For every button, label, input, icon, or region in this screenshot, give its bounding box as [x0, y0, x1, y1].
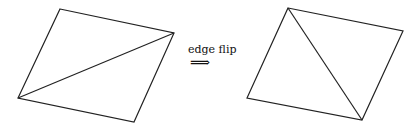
implies-arrow-icon: ⟹	[190, 55, 210, 69]
quad-after-diagonal	[288, 8, 362, 120]
quad-before	[18, 9, 174, 122]
quad-before-diagonal	[18, 33, 174, 98]
quad-after	[247, 8, 403, 120]
